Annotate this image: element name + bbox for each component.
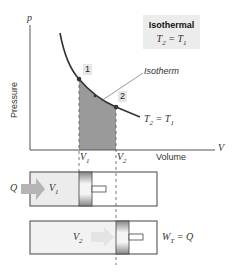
isotherm-label: Isotherm <box>144 66 179 76</box>
box-title: Isothermal <box>143 20 200 30</box>
diagram-graphics <box>0 0 237 280</box>
point-1-marker <box>77 77 82 82</box>
piston-2 <box>116 221 129 254</box>
piston-1 <box>79 172 92 206</box>
y-axis-symbol: p <box>27 12 32 23</box>
piston-rod-2 <box>129 234 143 240</box>
cylinder-2-volume-label: V2 <box>73 231 83 245</box>
box-equation: T2 = T1 <box>143 33 200 47</box>
cylinder-1-volume-label: V1 <box>49 182 59 196</box>
x-axis-label: Volume <box>156 152 186 162</box>
v2-label: V2 <box>117 151 127 165</box>
work-area <box>79 79 116 150</box>
heat-label: Q <box>10 182 17 193</box>
isothermal-box: Isothermal T2 = T1 <box>143 15 200 49</box>
curve-end-label: T2 = T1 <box>144 113 174 127</box>
point-1-label: 1 <box>83 64 92 75</box>
isothermal-diagram: Isothermal T2 = T1 p Pressure V Volume 1… <box>0 0 237 280</box>
mid-marker <box>94 95 97 98</box>
piston-rod-1 <box>92 186 106 192</box>
point-2-label: 2 <box>118 91 127 102</box>
work-label: WT = Q <box>162 231 193 245</box>
y-axis-label: Pressure <box>9 82 19 118</box>
x-axis-symbol: V <box>218 142 224 153</box>
v1-label: V1 <box>80 151 90 165</box>
point-2-marker <box>114 105 119 110</box>
